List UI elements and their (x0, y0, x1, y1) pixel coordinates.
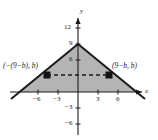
right-point-label: (9−b, b) (112, 62, 137, 70)
coordinate-plane (0, 0, 158, 140)
y-axis-label: y (80, 8, 83, 15)
x-tick-label-minus3: −3 (53, 96, 60, 103)
graph-figure: −6 −3 3 6 12 9 6 −3 −6 x y (−(9−b), b) (… (0, 0, 158, 140)
x-tick-label-minus6: −6 (33, 96, 40, 103)
y-tick-label-6: 6 (69, 56, 73, 63)
x-axis-label: x (145, 88, 148, 95)
y-tick-label-minus6: −6 (65, 120, 72, 127)
x-tick-label-3: 3 (96, 96, 100, 103)
y-axis-arrow-icon (75, 18, 80, 24)
y-tick-label-minus3: −3 (65, 104, 72, 111)
y-tick-label-9: 9 (69, 40, 73, 47)
y-tick-label-12: 12 (64, 24, 71, 31)
x-tick-label-6: 6 (116, 96, 120, 103)
left-point-label: (−(9−b), b) (3, 62, 38, 70)
left-point-marker (44, 72, 51, 79)
right-point-marker (106, 72, 113, 79)
